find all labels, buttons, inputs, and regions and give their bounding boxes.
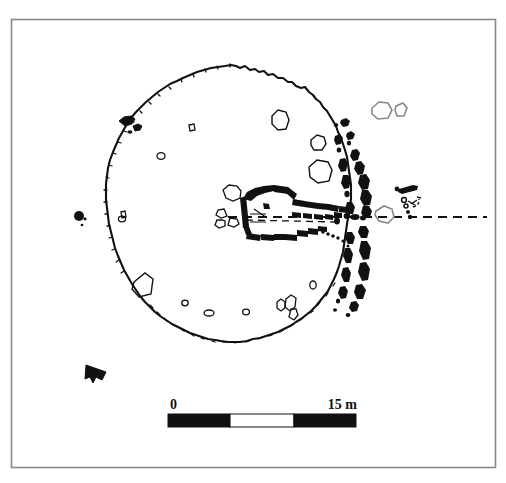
site-plan-drawing: 0 15 m [0, 0, 506, 483]
scale-bar-end-label: 15 m [328, 397, 358, 412]
site-plan-figure: 0 15 m [0, 0, 506, 483]
scale-bar-start-label: 0 [170, 397, 177, 412]
scale-bar-segment-2 [230, 414, 294, 427]
scale-bar-segment-3 [294, 414, 356, 427]
scale-bar-segment-1 [168, 414, 230, 427]
drawing-background [0, 0, 506, 483]
